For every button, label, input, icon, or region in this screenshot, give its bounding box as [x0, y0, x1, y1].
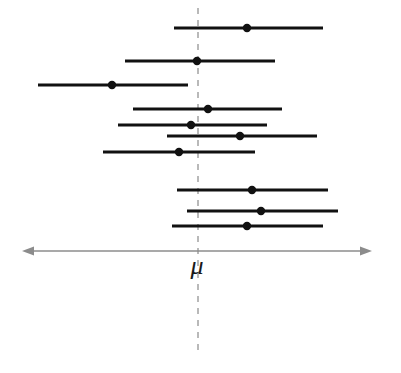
- point-estimate-dot: [204, 105, 212, 113]
- ci-plot-canvas: μ: [0, 0, 401, 373]
- point-estimate-dot: [243, 24, 251, 32]
- point-estimate-dot: [243, 222, 251, 230]
- confidence-interval: [125, 57, 275, 65]
- confidence-interval: [103, 148, 255, 156]
- axis-right-arrowhead: [360, 246, 372, 255]
- point-estimate-dot: [236, 132, 244, 140]
- confidence-intervals-layer: [38, 24, 338, 230]
- confidence-interval: [118, 121, 267, 129]
- confidence-interval: [38, 81, 188, 89]
- point-estimate-dot: [248, 186, 256, 194]
- confidence-interval-figure: μ: [0, 0, 401, 373]
- confidence-interval: [167, 132, 317, 140]
- confidence-interval: [177, 186, 328, 194]
- confidence-interval: [172, 222, 323, 230]
- confidence-interval: [187, 207, 338, 215]
- point-estimate-dot: [108, 81, 116, 89]
- confidence-interval: [174, 24, 323, 32]
- confidence-interval: [133, 105, 282, 113]
- point-estimate-dot: [187, 121, 195, 129]
- mu-axis-label: μ: [189, 251, 203, 280]
- point-estimate-dot: [193, 57, 201, 65]
- point-estimate-dot: [175, 148, 183, 156]
- axis-left-arrowhead: [22, 246, 34, 255]
- point-estimate-dot: [257, 207, 265, 215]
